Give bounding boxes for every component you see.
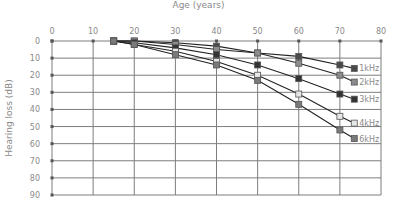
legend-marker (351, 136, 357, 142)
y-tick-label: 60 (30, 140, 40, 149)
data-point-marker (214, 62, 220, 68)
x-tick-mark (297, 40, 300, 43)
data-point-marker (296, 60, 302, 66)
x-tick-mark (215, 40, 218, 43)
x-tick-label: 40 (211, 27, 221, 36)
data-point-marker (337, 62, 343, 68)
x-axis-ticks: 01020304050607080 (49, 27, 386, 43)
data-point-marker (111, 38, 117, 44)
data-point-marker (337, 72, 343, 78)
legend-marker (351, 65, 357, 71)
y-tick-mark (51, 91, 54, 94)
y-tick-label: 90 (30, 191, 40, 200)
data-point-marker (214, 52, 220, 58)
series-6khz (111, 38, 355, 139)
x-tick-label: 70 (335, 27, 345, 36)
data-point-marker (337, 91, 343, 97)
x-tick-mark (92, 40, 95, 43)
y-tick-mark (51, 176, 54, 179)
x-tick-label: 30 (170, 27, 180, 36)
hearing-loss-chart: Age (years) 01020304050607080 0102030405… (0, 0, 397, 207)
y-axis-ticks: 0102030405060708090 (30, 37, 54, 200)
x-tick-label: 20 (129, 27, 139, 36)
y-tick-label: 30 (30, 88, 40, 97)
y-tick-label: 10 (30, 54, 40, 63)
x-tick-label: 0 (49, 27, 54, 36)
data-point-marker (131, 41, 137, 47)
y-tick-mark (51, 108, 54, 111)
data-point-marker (255, 62, 261, 68)
data-series (111, 38, 355, 139)
x-tick-label: 10 (88, 27, 98, 36)
data-point-marker (255, 50, 261, 56)
x-tick-label: 60 (294, 27, 304, 36)
y-tick-mark (51, 57, 54, 60)
data-point-marker (337, 113, 343, 119)
data-point-marker (296, 76, 302, 82)
y-axis-title: Hearing loss (dB) (4, 79, 14, 156)
legend-label: 1kHz (359, 64, 379, 73)
chart-plot-area: 01020304050607080 0102030405060708090 He… (0, 0, 397, 207)
data-point-marker (172, 52, 178, 58)
legend-marker (351, 120, 357, 126)
y-tick-mark (51, 142, 54, 145)
y-tick-label: 50 (30, 123, 40, 132)
legend-label: 2kHz (359, 78, 379, 87)
x-tick-mark (380, 40, 383, 43)
y-tick-mark (51, 159, 54, 162)
y-tick-label: 80 (30, 174, 40, 183)
data-point-marker (337, 127, 343, 133)
series-line (114, 41, 340, 130)
series-line (114, 41, 340, 116)
legend-label: 6kHz (359, 135, 379, 144)
x-tick-label: 80 (376, 27, 386, 36)
x-tick-label: 50 (253, 27, 263, 36)
legend-marker (351, 79, 357, 85)
data-point-marker (296, 101, 302, 107)
y-tick-label: 70 (30, 157, 40, 166)
y-tick-mark (51, 40, 54, 43)
series-line (114, 41, 340, 94)
y-tick-mark (51, 74, 54, 77)
y-tick-mark (51, 125, 54, 128)
x-tick-mark (256, 40, 259, 43)
legend-label: 4kHz (359, 119, 379, 128)
y-tick-mark (51, 194, 54, 197)
y-tick-label: 0 (35, 37, 40, 46)
legend-label: 3kHz (359, 95, 379, 104)
x-tick-mark (338, 40, 341, 43)
data-point-marker (296, 53, 302, 59)
y-tick-label: 20 (30, 71, 40, 80)
data-point-marker (255, 77, 261, 83)
inline-legend: 1kHz2kHz3kHz4kHz6kHz (351, 64, 379, 143)
x-axis-title: Age (years) (0, 0, 397, 10)
y-tick-label: 40 (30, 105, 40, 114)
legend-marker (351, 96, 357, 102)
data-point-marker (296, 91, 302, 97)
